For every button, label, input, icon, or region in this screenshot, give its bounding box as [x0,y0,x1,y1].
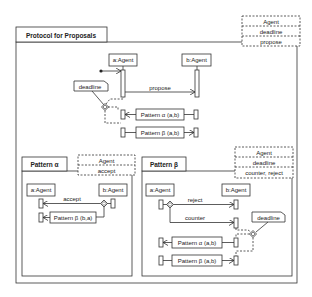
main-deadline-note-label: deadline [79,84,102,90]
main-ref-pattern-alpha-label: Pattern α (a,b) [141,112,179,118]
alpha-ref-pattern-beta-label: Pattern β (b,a) [54,215,92,221]
main-ref-a-bar-2 [121,128,125,137]
template-param-deadline: deadline [260,29,283,35]
propose-label: propose [149,85,171,91]
pattern-alpha-frame: Pattern α Agent accept a:Agent b:Agent a… [22,155,135,276]
reject-label: reject [188,197,203,203]
beta-ref-pattern-beta-label: Pattern β (a,b) [178,258,216,264]
main-ref-b-bar-1 [194,110,198,119]
beta-template-agent: Agent [256,150,272,156]
main-ref-pattern-beta-label: Pattern β (a,b) [141,130,179,136]
beta-activation-b-2 [234,218,238,228]
beta-deadline-note-label: deadline [257,215,280,221]
beta-ref-b-bar-2 [234,256,238,265]
alpha-template-box: Agent accept [78,155,135,175]
beta-template-counter-reject: counter, reject [245,170,283,176]
alpha-ref-a-bar [39,213,43,222]
main-lifeline-b-label: b:Agent [186,57,207,63]
beta-activation-a [159,200,163,209]
main-template-box: Agent deadline propose [242,16,300,46]
accept-label: accept [63,196,81,202]
beta-template-box: Agent deadline counter, reject [235,147,293,178]
beta-lifeline-b-label: b:Agent [226,187,247,193]
beta-activation-b-1 [234,200,238,209]
beta-ref-b-bar-1 [234,238,238,247]
alpha-template-agent: Agent [99,158,115,164]
main-lifeline-a-label: a:Agent [113,57,134,63]
main-ref-a-bar-1 [121,110,125,119]
alpha-activation-a [39,199,43,208]
beta-template-deadline: deadline [253,160,276,166]
alpha-lifeline-a-label: a:Agent [31,187,52,193]
counter-label: counter [185,215,205,221]
beta-lifeline-a-label: a:Agent [150,187,171,193]
alpha-template-accept: accept [98,168,116,174]
template-param-agent: Agent [263,19,279,25]
main-activation-a [121,70,125,97]
beta-ref-a-bar-1 [159,238,163,247]
pattern-beta-title: Pattern β [150,161,178,169]
alpha-activation-b [111,199,115,208]
beta-ref-pattern-alpha-label: Pattern α (a,b) [178,240,216,246]
pattern-alpha-title: Pattern α [30,161,58,168]
alpha-lifeline-b-label: b:Agent [103,187,124,193]
template-param-propose: propose [260,39,282,45]
main-frame-title: Protocol for Proposals [26,32,96,40]
protocol-diagram: Protocol for Proposals Agent deadline pr… [0,0,312,297]
beta-ref-a-bar-2 [159,256,163,265]
main-activation-b [195,70,199,97]
main-ref-b-bar-2 [194,128,198,137]
